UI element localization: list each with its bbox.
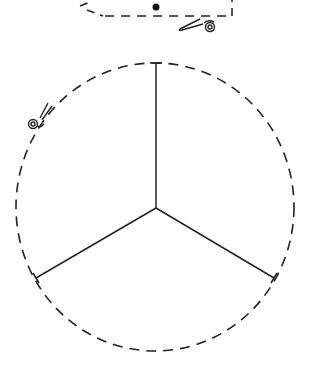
scissors-icon-top (179, 19, 214, 32)
center-dot (153, 4, 160, 11)
sector-lines (33, 63, 277, 283)
cut-circle (16, 63, 294, 351)
cutout-template (0, 0, 315, 366)
